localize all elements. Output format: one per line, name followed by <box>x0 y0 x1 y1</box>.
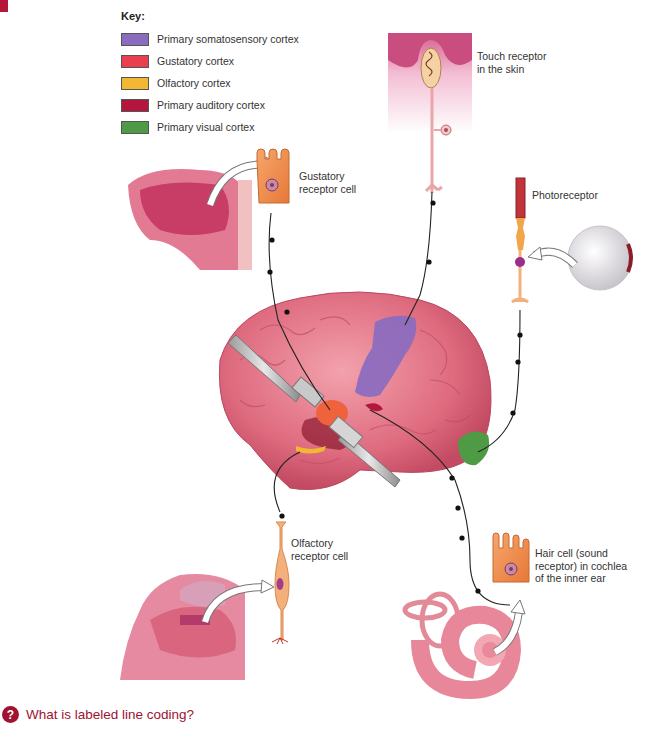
photoreceptor-label: Photoreceptor <box>532 189 598 202</box>
label-line: Gustatory <box>299 170 356 183</box>
brain-illustration <box>219 292 491 490</box>
hair-cell-label: Hair cell (sound receptor) in cochlea of… <box>535 547 627 585</box>
mouth-illustration <box>128 157 278 270</box>
hair-cell-illustration <box>493 533 529 582</box>
cochlea-illustration <box>405 594 525 690</box>
eye-illustration <box>528 226 632 290</box>
touch-receptor-illustration <box>388 33 472 193</box>
sensory-pathways-illustration <box>0 0 654 739</box>
olfactory-receptor-label: Olfactory receptor cell <box>291 537 348 562</box>
label-line: receptor cell <box>291 550 348 563</box>
label-line: Photoreceptor <box>532 189 598 202</box>
label-line: of the inner ear <box>535 572 627 585</box>
label-line: Olfactory <box>291 537 348 550</box>
label-line: in the skin <box>477 63 546 76</box>
label-line: Touch receptor <box>477 50 546 63</box>
question-text: What is labeled line coding? <box>26 707 194 722</box>
label-line: receptor cell <box>299 183 356 196</box>
photoreceptor-illustration <box>512 178 528 302</box>
label-line: receptor) in cochlea <box>535 560 627 573</box>
label-line: Hair cell (sound <box>535 547 627 560</box>
question-prompt: ? What is labeled line coding? <box>2 706 194 723</box>
olfactory-cell-illustration <box>272 522 289 644</box>
gustatory-cell-illustration <box>257 149 289 203</box>
touch-receptor-label: Touch receptor in the skin <box>477 50 546 75</box>
question-icon: ? <box>2 706 19 723</box>
gustatory-receptor-label: Gustatory receptor cell <box>299 170 356 195</box>
nose-illustration <box>120 574 274 680</box>
